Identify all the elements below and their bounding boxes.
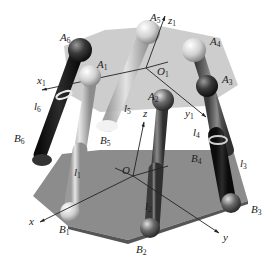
label-a6: A6 <box>59 31 71 45</box>
label-x1: x1 <box>36 74 46 88</box>
label-o: O <box>122 164 130 176</box>
label-z: z <box>142 107 148 119</box>
label-y: y <box>222 231 228 243</box>
label-l3: l3 <box>240 157 247 171</box>
label-a5: A5 <box>149 11 161 25</box>
stewart-platform-diagram: A6 A1 A2 A3 A4 A5 z1 O1 x1 y1 l6 l5 l4 l… <box>0 0 271 266</box>
label-l6: l6 <box>34 100 41 114</box>
joint-a3 <box>196 75 218 97</box>
label-b3: B3 <box>251 203 262 217</box>
joint-a6 <box>68 38 92 62</box>
label-b5: B5 <box>100 134 111 148</box>
label-b2: B2 <box>136 243 147 257</box>
label-y1: y1 <box>184 107 194 121</box>
label-a4: A4 <box>209 35 221 49</box>
label-z1: z1 <box>167 14 176 28</box>
label-b6: B6 <box>14 132 25 146</box>
joint-a4 <box>182 38 206 62</box>
label-x: x <box>28 215 34 227</box>
label-l4: l4 <box>193 126 200 140</box>
